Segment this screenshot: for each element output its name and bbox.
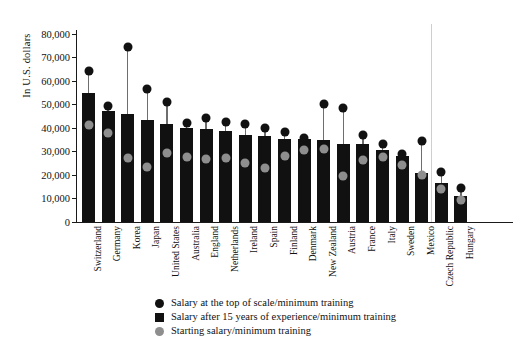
starting-salary-dot xyxy=(456,195,465,204)
top-of-scale-dot xyxy=(260,124,269,133)
whisker-line xyxy=(421,141,422,173)
starting-salary-dot xyxy=(319,144,328,153)
legend-label: Salary after 15 years of experience/mini… xyxy=(171,310,396,324)
bar xyxy=(239,135,252,222)
top-of-scale-dot xyxy=(182,118,191,127)
x-axis-label: United States xyxy=(171,226,181,277)
starting-salary-dot xyxy=(241,158,250,167)
y-tick-label: 20,000 xyxy=(41,169,70,180)
bar xyxy=(258,136,271,222)
top-of-scale-dot xyxy=(398,150,407,159)
x-axis-label: Spain xyxy=(269,226,279,248)
x-axis-label: France xyxy=(367,226,377,252)
bar xyxy=(415,173,428,222)
bar xyxy=(160,124,173,222)
starting-salary-dot xyxy=(417,170,426,179)
starting-salary-dot xyxy=(437,184,446,193)
y-axis-label: In U.S. dollars xyxy=(21,11,32,121)
top-of-scale-dot xyxy=(437,167,446,176)
top-of-scale-dot xyxy=(162,98,171,107)
square-dark-icon xyxy=(155,313,164,322)
whisker-line xyxy=(147,89,148,119)
x-axis-label: England xyxy=(210,226,220,258)
starting-salary-dot xyxy=(104,129,113,138)
x-axis-line xyxy=(76,222,513,223)
legend-item: Starting salary/minimum training xyxy=(155,324,396,338)
y-tick-mark xyxy=(72,198,76,199)
starting-salary-dot xyxy=(280,152,289,161)
starting-salary-dot xyxy=(378,153,387,162)
starting-salary-dot xyxy=(358,155,367,164)
category-separator-line xyxy=(431,24,432,222)
plot-area: 010,00020,00030,00040,00050,00060,00070,… xyxy=(76,22,513,222)
x-axis-label: Czech Republic xyxy=(445,226,455,286)
y-tick-label: 60,000 xyxy=(41,75,70,86)
top-of-scale-dot xyxy=(202,114,211,123)
y-tick-mark xyxy=(72,151,76,152)
top-of-scale-dot xyxy=(143,85,152,94)
legend-item: Salary at the top of scale/minimum train… xyxy=(155,296,396,310)
y-tick-label: 30,000 xyxy=(41,146,70,157)
y-tick-mark xyxy=(72,222,76,223)
x-axis-label: Mexico xyxy=(426,226,436,255)
x-axis-label: Ireland xyxy=(249,226,259,253)
y-tick-label: 70,000 xyxy=(41,52,70,63)
starting-salary-dot xyxy=(84,120,93,129)
whisker-line xyxy=(343,108,344,143)
bar xyxy=(200,129,213,222)
whisker-line xyxy=(323,104,324,140)
y-tick-label: 10,000 xyxy=(41,193,70,204)
top-of-scale-dot xyxy=(123,42,132,51)
x-axis-label: Australia xyxy=(191,226,201,261)
top-of-scale-dot xyxy=(417,136,426,145)
x-axis-label: Austria xyxy=(347,226,357,254)
x-axis-label: Denmark xyxy=(308,226,318,261)
top-of-scale-dot xyxy=(104,101,113,110)
starting-salary-dot xyxy=(143,163,152,172)
bar xyxy=(121,114,134,222)
y-tick-mark xyxy=(72,175,76,176)
chart-legend: Salary at the top of scale/minimum train… xyxy=(155,296,396,338)
x-axis-label: New Zealand xyxy=(328,226,338,277)
top-of-scale-dot xyxy=(378,140,387,149)
circle-gray-icon xyxy=(155,327,164,336)
y-tick-label: 80,000 xyxy=(41,28,70,39)
y-tick-mark xyxy=(72,57,76,58)
chart-figure: In U.S. dollars 010,00020,00030,00040,00… xyxy=(0,0,527,349)
starting-salary-dot xyxy=(202,154,211,163)
top-of-scale-dot xyxy=(358,130,367,139)
top-of-scale-dot xyxy=(241,120,250,129)
starting-salary-dot xyxy=(260,164,269,173)
top-of-scale-dot xyxy=(339,104,348,113)
y-tick-mark xyxy=(72,34,76,35)
starting-salary-dot xyxy=(300,145,309,154)
x-axis-label: Sweden xyxy=(406,226,416,256)
x-axis-label: Germany xyxy=(112,226,122,261)
x-axis-label: Korea xyxy=(132,226,142,249)
starting-salary-dot xyxy=(182,153,191,162)
x-axis-label: Japan xyxy=(151,226,161,248)
starting-salary-dot xyxy=(398,160,407,169)
bar xyxy=(337,144,350,222)
bar xyxy=(219,131,232,222)
y-tick-mark xyxy=(72,128,76,129)
x-axis-label: Switzerland xyxy=(93,226,103,271)
legend-label: Starting salary/minimum training xyxy=(171,324,311,338)
whisker-line xyxy=(127,47,128,115)
x-axis-label: Italy xyxy=(387,226,397,243)
top-of-scale-dot xyxy=(300,134,309,143)
x-axis-label: Hungary xyxy=(465,226,475,259)
starting-salary-dot xyxy=(162,149,171,158)
x-axis-label: Netherlands xyxy=(230,226,240,272)
top-of-scale-dot xyxy=(456,184,465,193)
legend-label: Salary at the top of scale/minimum train… xyxy=(171,296,354,310)
starting-salary-dot xyxy=(221,153,230,162)
y-tick-mark xyxy=(72,104,76,105)
top-of-scale-dot xyxy=(280,128,289,137)
top-of-scale-dot xyxy=(221,118,230,127)
starting-salary-dot xyxy=(339,171,348,180)
top-of-scale-dot xyxy=(84,66,93,75)
bar xyxy=(82,93,95,222)
legend-item: Salary after 15 years of experience/mini… xyxy=(155,310,396,324)
y-tick-mark xyxy=(72,81,76,82)
